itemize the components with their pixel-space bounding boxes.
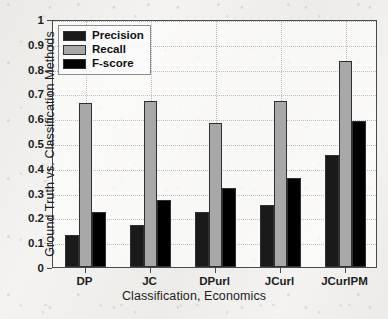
- bar-jc-recall: [144, 101, 157, 267]
- y-tick-label: 0: [38, 262, 44, 274]
- y-tick-label: 0.8: [28, 64, 44, 76]
- bar-jcurl-precision: [260, 205, 273, 267]
- bar-dp-f-score: [92, 212, 105, 267]
- bar-jcurlpm-precision: [325, 155, 338, 267]
- bar-dpurl-precision: [195, 212, 208, 267]
- x-tick-label-jc: JC: [142, 275, 157, 287]
- bar-dpurl-f-score: [222, 188, 235, 267]
- bar-jc-precision: [130, 225, 143, 267]
- y-tick-label: 0.3: [28, 188, 44, 200]
- legend-item-precision: Precision: [63, 29, 144, 43]
- bar-dp-recall: [79, 103, 92, 267]
- y-tick-label: 0.5: [28, 138, 44, 150]
- legend-label-fscore: F-score: [92, 58, 134, 70]
- bar-dp-precision: [65, 235, 78, 267]
- y-tick-label: 0.7: [28, 88, 44, 100]
- bar-dpurl-recall: [209, 123, 222, 267]
- bar-jc-f-score: [157, 200, 170, 267]
- gridline-horizontal: [53, 120, 376, 121]
- legend-label-precision: Precision: [92, 30, 144, 42]
- legend-swatch-recall: [63, 45, 86, 55]
- chart-legend: Precision Recall F-score: [58, 25, 151, 75]
- y-tick-label: 0.6: [28, 113, 44, 125]
- y-tick-mark: [47, 20, 52, 21]
- x-axis-title: Classification, Economics: [0, 289, 388, 303]
- y-tick-label: 1: [38, 14, 44, 26]
- y-tick-label: 0.2: [28, 212, 44, 224]
- x-tick-label-dp: DP: [77, 275, 93, 287]
- x-tick-mark: [150, 268, 151, 273]
- y-axis-title: Ground Truth vs. Classification Methods: [43, 31, 57, 257]
- legend-label-recall: Recall: [92, 44, 126, 56]
- bar-jcurl-recall: [274, 101, 287, 267]
- legend-item-fscore: F-score: [63, 57, 144, 71]
- legend-item-recall: Recall: [63, 43, 144, 57]
- x-tick-mark: [215, 268, 216, 273]
- y-tick-label: 0.9: [28, 39, 44, 51]
- y-tick-label: 0.1: [28, 237, 44, 249]
- x-tick-mark: [85, 268, 86, 273]
- bar-jcurlpm-f-score: [352, 121, 365, 267]
- y-tick-mark: [47, 268, 52, 269]
- x-tick-label-dpurl: DPurl: [199, 275, 230, 287]
- x-tick-label-jcurl: JCurl: [265, 275, 294, 287]
- chart-plot-wrapper: Precision Recall F-score 00.10.20.30.40.…: [52, 20, 377, 268]
- y-tick-label: 0.4: [28, 163, 44, 175]
- legend-swatch-precision: [63, 31, 86, 41]
- x-tick-mark: [280, 268, 281, 273]
- bar-jcurlpm-recall: [339, 61, 352, 267]
- x-tick-label-jcurlpm: JCurlPM: [321, 275, 368, 287]
- bar-jcurl-f-score: [287, 178, 300, 267]
- bar-chart-plot-area: Precision Recall F-score: [52, 20, 377, 268]
- gridline-horizontal: [53, 21, 376, 22]
- legend-swatch-fscore: [63, 59, 86, 69]
- x-tick-mark: [345, 268, 346, 273]
- gridline-horizontal: [53, 95, 376, 96]
